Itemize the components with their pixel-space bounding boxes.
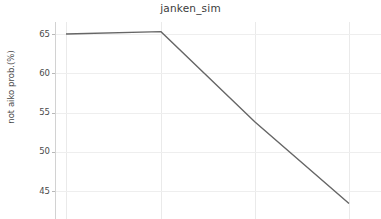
plot-area	[56, 22, 381, 219]
y-tick-label: 65	[24, 30, 50, 39]
y-tick-label: 50	[24, 147, 50, 156]
y-axis-tick-labels: 65 60 55 50 45	[18, 0, 50, 219]
data-line-not-aiko-prob	[66, 32, 349, 204]
y-tick-label: 45	[24, 187, 50, 196]
y-tick-mark	[52, 73, 55, 74]
y-axis-label: not aiko prob.(%)	[6, 32, 16, 142]
y-tick-mark	[52, 191, 55, 192]
y-tick-mark	[52, 34, 55, 35]
y-tick-mark	[52, 113, 55, 114]
y-tick-label: 60	[24, 69, 50, 78]
y-tick-label: 55	[24, 108, 50, 117]
y-tick-mark	[52, 152, 55, 153]
chart-figure: janken_sim not aiko prob.(%) 65 60 55 50…	[0, 0, 381, 219]
chart-title: janken_sim	[0, 2, 381, 14]
data-series-svg	[56, 22, 381, 219]
